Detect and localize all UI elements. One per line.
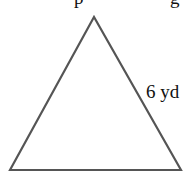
side-length-label: 6 yd [146, 81, 180, 102]
cropped-caption-text-2: g [170, 0, 180, 8]
cropped-caption-text: p [74, 0, 84, 8]
triangle-diagram: p g 6 yd [0, 0, 194, 171]
